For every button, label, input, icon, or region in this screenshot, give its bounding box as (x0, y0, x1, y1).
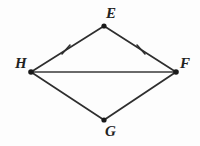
segment-HG (31, 72, 104, 120)
vertex-point-F (173, 69, 179, 75)
tick-mark-EF (137, 45, 145, 54)
tick-mark-HE (62, 45, 70, 54)
vertex-label-E: E (106, 6, 116, 21)
vertex-label-F: F (180, 56, 190, 71)
segment-GF (104, 72, 176, 120)
vertex-label-H: H (15, 56, 27, 71)
geometry-canvas (0, 0, 200, 146)
vertex-point-H (28, 69, 34, 75)
geometry-figure: E H F G (0, 0, 200, 146)
vertex-label-G: G (105, 124, 116, 139)
vertex-point-G (101, 117, 106, 122)
vertex-point-E (101, 23, 106, 28)
